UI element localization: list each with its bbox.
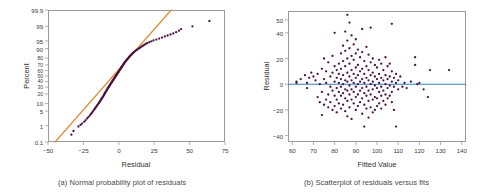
data-point bbox=[367, 100, 369, 102]
y-tick-label: 80 bbox=[37, 55, 43, 61]
data-point bbox=[353, 91, 355, 93]
data-point bbox=[325, 82, 327, 84]
data-point bbox=[363, 104, 365, 106]
data-point bbox=[321, 68, 323, 70]
data-point bbox=[340, 107, 342, 109]
data-point bbox=[150, 40, 152, 42]
data-point bbox=[323, 78, 325, 80]
data-point bbox=[340, 78, 342, 80]
data-point bbox=[416, 83, 418, 85]
data-point bbox=[372, 98, 374, 100]
data-point bbox=[380, 107, 382, 109]
data-point bbox=[348, 63, 350, 65]
data-point bbox=[340, 52, 342, 54]
data-point bbox=[367, 89, 369, 91]
data-point bbox=[321, 91, 323, 93]
x-axis-title-a: Residual bbox=[122, 160, 151, 169]
data-point bbox=[333, 95, 335, 97]
data-point bbox=[178, 30, 180, 32]
data-point bbox=[372, 80, 374, 82]
data-point bbox=[365, 95, 367, 97]
data-point bbox=[348, 106, 350, 108]
data-point bbox=[363, 60, 365, 62]
data-point bbox=[393, 86, 395, 88]
y-tick-label: 50 bbox=[37, 73, 43, 79]
data-point bbox=[376, 97, 378, 99]
data-point bbox=[393, 77, 395, 79]
data-point bbox=[346, 115, 348, 117]
data-point bbox=[359, 70, 361, 72]
data-point bbox=[172, 32, 174, 34]
data-point bbox=[300, 78, 302, 80]
x-tick-label: 100 bbox=[372, 147, 382, 154]
data-point bbox=[391, 23, 393, 25]
data-point bbox=[384, 56, 386, 58]
y-tick-label: 20 bbox=[276, 55, 283, 62]
data-point bbox=[357, 48, 359, 50]
data-point bbox=[310, 71, 312, 73]
data-point bbox=[367, 54, 369, 56]
data-point bbox=[367, 116, 369, 118]
data-point bbox=[376, 66, 378, 68]
data-point bbox=[312, 75, 314, 77]
data-point bbox=[369, 61, 371, 63]
data-point bbox=[348, 75, 350, 77]
data-point bbox=[317, 96, 319, 98]
x-tick-label: 75 bbox=[222, 147, 229, 154]
x-tick-label: 130 bbox=[436, 147, 446, 154]
data-point bbox=[380, 86, 382, 88]
data-point bbox=[327, 93, 329, 95]
data-point bbox=[336, 77, 338, 79]
data-point bbox=[323, 57, 325, 59]
data-point bbox=[164, 35, 166, 37]
data-point bbox=[340, 68, 342, 70]
data-point bbox=[399, 75, 401, 77]
x-tick-label: 110 bbox=[393, 147, 403, 154]
data-point bbox=[350, 79, 352, 81]
data-point bbox=[155, 38, 157, 40]
x-tick-label: 25 bbox=[151, 147, 158, 154]
data-point bbox=[363, 125, 365, 127]
data-point bbox=[367, 79, 369, 81]
data-point bbox=[359, 101, 361, 103]
data-point bbox=[429, 69, 431, 71]
data-point bbox=[395, 73, 397, 75]
x-tick-label: 70 bbox=[310, 147, 317, 154]
data-point bbox=[361, 68, 363, 70]
data-point bbox=[403, 82, 405, 84]
data-point bbox=[361, 97, 363, 99]
data-point bbox=[344, 110, 346, 112]
data-point bbox=[359, 56, 361, 58]
panel-normal-probability-plot: 0.115102030405060708090959999.9 −50−2502… bbox=[0, 0, 244, 193]
data-point bbox=[325, 70, 327, 72]
data-point bbox=[427, 96, 429, 98]
data-point bbox=[378, 73, 380, 75]
data-point bbox=[380, 95, 382, 97]
data-point bbox=[369, 83, 371, 85]
data-point bbox=[355, 86, 357, 88]
data-point bbox=[348, 21, 350, 23]
y-tick-label: 5 bbox=[40, 108, 43, 115]
data-point bbox=[391, 91, 393, 93]
data-point bbox=[146, 42, 148, 44]
data-point bbox=[346, 71, 348, 73]
data-point bbox=[342, 45, 344, 47]
data-point bbox=[350, 34, 352, 36]
y-tick-label: −20 bbox=[273, 106, 283, 113]
data-point bbox=[374, 84, 376, 86]
data-point bbox=[384, 74, 386, 76]
data-point bbox=[393, 109, 395, 111]
data-point bbox=[167, 34, 169, 36]
data-point bbox=[365, 86, 367, 88]
data-point bbox=[338, 63, 340, 65]
data-point bbox=[391, 80, 393, 82]
data-point bbox=[348, 93, 350, 95]
data-point bbox=[389, 75, 391, 77]
y-tick-label: 0 bbox=[280, 81, 283, 88]
data-point bbox=[365, 107, 367, 109]
data-point bbox=[359, 80, 361, 82]
data-point bbox=[414, 64, 416, 66]
data-point bbox=[376, 78, 378, 80]
data-point bbox=[395, 125, 397, 127]
data-point bbox=[365, 46, 367, 48]
